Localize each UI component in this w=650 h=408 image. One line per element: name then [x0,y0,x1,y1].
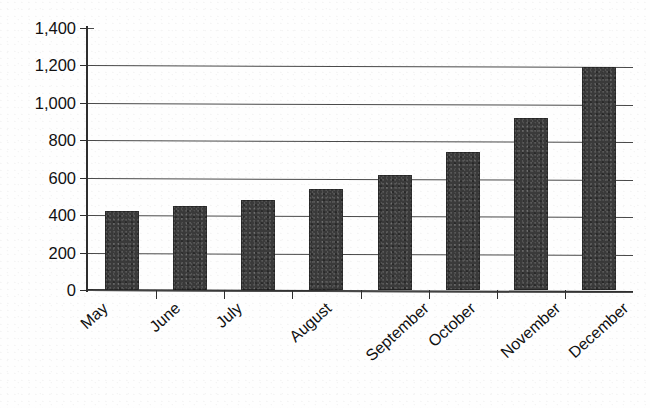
y-axis-tick-label: 1,200 [10,57,76,74]
gridline [88,178,633,181]
x-axis-tick-mark [497,290,498,299]
x-axis-tick-label: December [566,300,632,361]
y-axis-tick-label: 800 [10,132,76,149]
gridline [88,65,633,68]
bar [446,152,480,290]
x-axis-tick-mark [292,290,293,299]
bar [105,211,139,290]
y-axis-tick-mark [80,253,88,254]
y-axis-tick-label: 400 [10,207,76,224]
y-axis-tick-mark [80,140,88,141]
bar [582,67,616,290]
y-axis-tick-label: 1,000 [10,95,76,112]
y-axis-tick-mark [80,103,88,104]
gridline [88,215,633,218]
y-axis-tick-label: 0 [10,282,76,299]
bar [309,189,343,290]
top-axis-stub [88,28,94,29]
chart-title [0,0,650,2]
y-axis-tick-label: 1,400 [10,20,76,37]
x-axis-tick-label: September [363,300,432,364]
bar [514,118,548,290]
x-axis-tick-mark [156,290,157,299]
y-axis-tick-mark [80,178,88,179]
x-axis-tick-label: July [214,300,246,331]
x-axis-tick-label: June [147,300,183,335]
gridline [88,103,633,106]
gridline [88,253,633,256]
plot-area [88,28,633,290]
y-axis-tick-mark [80,65,88,66]
gridline [88,140,633,143]
bar-chart-figure: 02004006008001,0001,2001,400MayJuneJulyA… [0,0,650,408]
y-axis-tick-label: 200 [10,245,76,262]
bar [241,200,275,290]
x-axis-tick-mark [224,290,225,299]
y-axis-tick-mark [80,215,88,216]
x-axis-tick-mark [429,290,430,299]
x-axis-tick-label: October [425,300,478,350]
bar [173,206,207,290]
x-axis-tick-mark [565,290,566,299]
y-axis-tick-mark [80,28,88,29]
x-axis-tick-label: May [78,300,111,332]
x-axis-tick-label: August [287,300,335,345]
y-axis-tick-mark [80,290,88,291]
y-axis-tick-label: 600 [10,170,76,187]
bar [378,175,412,290]
x-axis-tick-label: November [498,300,564,361]
x-axis-tick-mark [361,290,362,299]
